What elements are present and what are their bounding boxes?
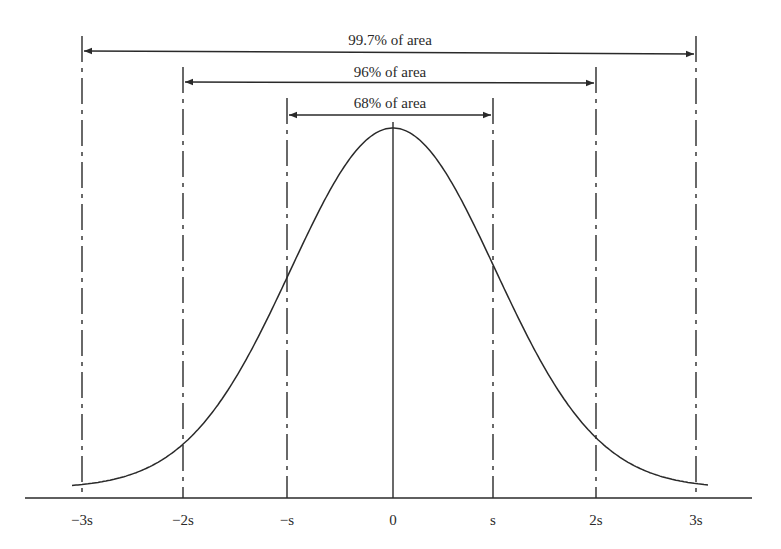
arrow-99-7 bbox=[84, 51, 694, 54]
tick-minus-3s: −3s bbox=[71, 512, 93, 528]
span-label-96: 96% of area bbox=[354, 64, 427, 80]
tick-minus-1s: −s bbox=[280, 512, 294, 528]
tick-plus-1s: s bbox=[490, 512, 496, 528]
span-label-99-7: 99.7% of area bbox=[348, 32, 432, 48]
x-tick-labels: −3s −2s −s 0 s 2s 3s bbox=[71, 512, 703, 528]
tick-plus-3s: 3s bbox=[689, 512, 703, 528]
tick-minus-2s: −2s bbox=[172, 512, 194, 528]
arrow-96 bbox=[185, 82, 594, 83]
span-label-68: 68% of area bbox=[354, 95, 427, 111]
normal-distribution-chart: 99.7% of area 96% of area 68% of area −3… bbox=[0, 0, 781, 549]
tick-zero: 0 bbox=[389, 512, 397, 528]
normal-curve bbox=[72, 128, 708, 485]
tick-plus-2s: 2s bbox=[589, 512, 603, 528]
